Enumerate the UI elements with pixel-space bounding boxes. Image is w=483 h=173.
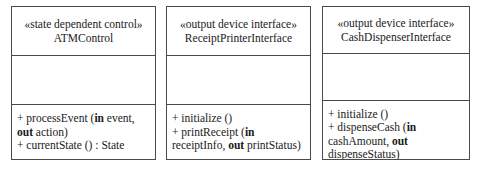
uml-class-box[interactable]: «output device interface» ReceiptPrinter… [166, 6, 311, 160]
operation-tail: printStatus) [244, 139, 301, 151]
class-name: ReceiptPrinterInterface [185, 31, 292, 45]
operation-prefix: + processEvent ( [17, 112, 94, 124]
class-stereotype: «output device interface» [338, 16, 455, 30]
class-attributes-compartment [167, 56, 310, 105]
operation-direction-keyword: out [228, 139, 244, 151]
class-operations-compartment: + processEvent (in event, out action) + … [12, 105, 155, 159]
class-name: ATMControl [54, 31, 113, 45]
operation-direction-keyword: in [94, 112, 104, 124]
operation-direction-keyword: out [392, 135, 408, 147]
operation-mid: event, [104, 112, 135, 124]
operation-prefix: + initialize () [328, 108, 388, 120]
uml-class-box[interactable]: «output device interface» CashDispenserI… [322, 6, 470, 160]
operation-prefix: + printReceipt ( [172, 126, 245, 138]
uml-class-box[interactable]: «state dependent control» ATMControl + p… [11, 6, 156, 160]
class-stereotype: «output device interface» [180, 17, 297, 31]
class-name: CashDispenserInterface [341, 30, 451, 44]
class-attributes-compartment [12, 56, 155, 105]
operation-prefix: + initialize () [172, 112, 232, 124]
operation-mid: receiptInfo, [172, 139, 228, 151]
operation-prefix: + currentState () : State [17, 139, 124, 151]
class-name-compartment: «output device interface» ReceiptPrinter… [167, 7, 310, 56]
uml-class-diagram: «state dependent control» ATMControl + p… [0, 0, 483, 173]
operation-item: + printReceipt (in receiptInfo, out prin… [172, 126, 305, 153]
class-name-compartment: «output device interface» CashDispenserI… [323, 7, 469, 54]
operation-direction-keyword: in [407, 121, 417, 133]
operation-prefix: + dispenseCash ( [328, 121, 407, 133]
operation-item: + initialize () [328, 108, 464, 122]
class-stereotype: «state dependent control» [24, 17, 142, 31]
class-attributes-compartment [323, 54, 469, 101]
class-name-compartment: «state dependent control» ATMControl [12, 7, 155, 56]
class-operations-compartment: + initialize () + dispenseCash (in cashA… [323, 101, 469, 159]
operation-item: + currentState () : State [17, 139, 150, 153]
class-operations-compartment: + initialize () + printReceipt (in recei… [167, 105, 310, 159]
operation-tail: dispenseStatus) [328, 148, 400, 159]
operation-item: + dispenseCash (in cashAmount, out dispe… [328, 121, 464, 159]
operation-item: + initialize () [172, 112, 305, 126]
operation-tail: action) [33, 126, 68, 138]
operation-direction-keyword: in [245, 126, 255, 138]
operation-direction-keyword: out [17, 126, 33, 138]
operation-item: + processEvent (in event, out action) [17, 112, 150, 139]
operation-mid: cashAmount, [328, 135, 392, 147]
